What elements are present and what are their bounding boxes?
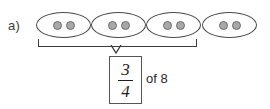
counter-group-4-dots <box>203 13 256 37</box>
fraction: 3 4 <box>118 61 133 100</box>
counter-group-3 <box>146 12 201 38</box>
counter-dot <box>163 21 172 30</box>
counter-group-1-dots <box>37 13 90 37</box>
counter-dot <box>108 21 117 30</box>
counter-dot <box>176 21 185 30</box>
counter-dot <box>219 21 228 30</box>
fraction-worksheet-problem: a) <box>0 0 270 109</box>
fraction-bar <box>118 80 133 81</box>
fraction-numerator: 3 <box>121 61 130 78</box>
counter-dot <box>121 21 130 30</box>
fraction-denominator: 4 <box>121 83 130 100</box>
fraction-answer-box: 3 4 <box>109 56 142 104</box>
counter-dot <box>232 21 241 30</box>
counter-group-4 <box>202 12 257 38</box>
counter-group-2-dots <box>92 13 145 37</box>
counter-group-1 <box>36 12 91 38</box>
counter-dot <box>53 21 62 30</box>
bracket-arrow-icon <box>110 45 122 54</box>
of-quantity-text: of 8 <box>146 71 168 87</box>
counter-dot <box>66 21 75 30</box>
counter-group-3-dots <box>147 13 200 37</box>
counter-group-2 <box>91 12 146 38</box>
